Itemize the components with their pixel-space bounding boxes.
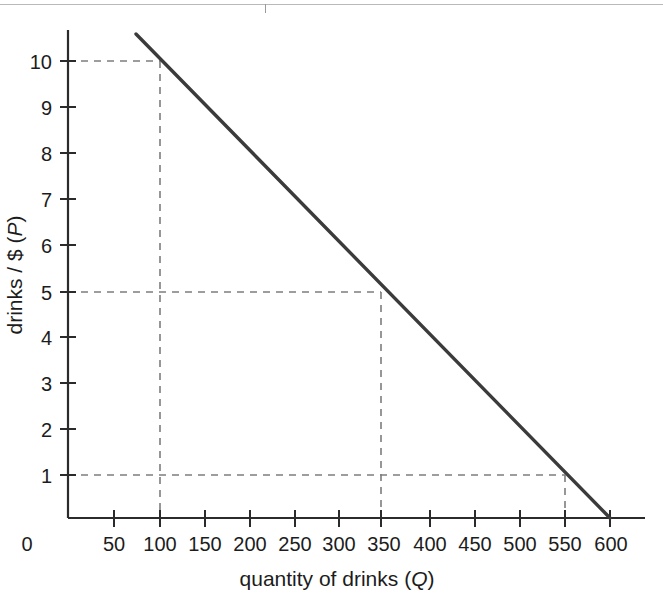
x-tick-label-250: 250 [278, 533, 311, 555]
x-tick-label-550: 550 [548, 533, 581, 555]
y-tick-label-5: 5 [41, 282, 52, 304]
x-tick-labels: 0 50 100 150 200 250 300 350 400 450 500… [21, 533, 627, 555]
y-tick-label-7: 7 [41, 189, 52, 211]
y-tick-label-8: 8 [41, 143, 52, 165]
x-axis-title: quantity of drinks (Q) [240, 567, 435, 590]
x-axis-title-symbol: Q [411, 567, 427, 590]
y-tick-label-9: 9 [41, 97, 52, 119]
x-tick-label-400: 400 [413, 533, 446, 555]
x-tick-label-450: 450 [458, 533, 491, 555]
x-tick-label-150: 150 [188, 533, 221, 555]
demand-curve-chart: 10 9 8 7 6 5 4 3 2 1 0 50 100 150 200 25… [0, 0, 663, 597]
x-tick-label-600: 600 [594, 533, 627, 555]
y-tick-label-1: 1 [41, 465, 52, 487]
y-axis-title-text: drinks / $ [3, 243, 26, 334]
x-tick-label-100: 100 [143, 533, 176, 555]
y-axis-title-symbol: P [3, 222, 26, 236]
axes-group [68, 30, 645, 518]
x-axis-title-text: quantity of drinks [240, 567, 405, 590]
y-tick-label-3: 3 [41, 373, 52, 395]
y-tick-label-6: 6 [41, 235, 52, 257]
guide-lines-group [68, 61, 565, 518]
x-tick-label-0: 0 [21, 533, 32, 555]
y-tick-label-4: 4 [41, 327, 52, 349]
x-tick-label-500: 500 [503, 533, 536, 555]
chart-figure: 10 9 8 7 6 5 4 3 2 1 0 50 100 150 200 25… [0, 0, 663, 597]
y-tick-label-2: 2 [41, 419, 52, 441]
y-axis-title: drinks / $ (P) [3, 215, 26, 334]
x-tick-label-300: 300 [322, 533, 355, 555]
x-tick-label-50: 50 [103, 533, 125, 555]
demand-curve-line [136, 34, 610, 518]
x-tick-label-350: 350 [367, 533, 400, 555]
y-tick-label-10: 10 [30, 51, 52, 73]
y-tick-labels: 10 9 8 7 6 5 4 3 2 1 [30, 51, 52, 487]
x-tick-label-200: 200 [233, 533, 266, 555]
